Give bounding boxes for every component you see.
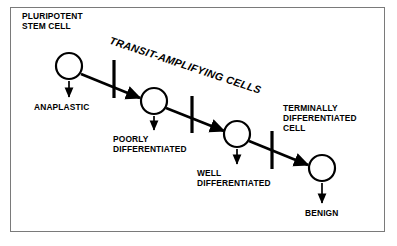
cell-circle-poorly-differentiated <box>141 88 167 114</box>
arrow-poorly-to-well <box>166 108 224 131</box>
label-pluripotent-stem-cell: PLURIPOTENT STEM CELL <box>22 11 83 31</box>
label-anaplastic: ANAPLASTIC <box>34 102 89 112</box>
label-benign: BENIGN <box>305 208 338 218</box>
cell-circle-pluripotent <box>56 53 82 79</box>
arrow-well-to-benign <box>249 141 308 165</box>
arrow-stem-to-poorly <box>81 74 140 98</box>
cell-circle-terminally-differentiated <box>309 155 335 181</box>
label-poorly-differentiated: POORLY DIFFERENTIATED <box>113 134 187 154</box>
label-well-differentiated: WELL DIFFERENTIATED <box>197 168 271 188</box>
label-terminally-differentiated-cell: TERMINALLY DIFFERENTIATED CELL <box>283 103 357 134</box>
diagram-canvas: PLURIPOTENT STEM CELL ANAPLASTIC TRANSIT… <box>0 0 397 246</box>
cell-circle-well-differentiated <box>224 121 250 147</box>
